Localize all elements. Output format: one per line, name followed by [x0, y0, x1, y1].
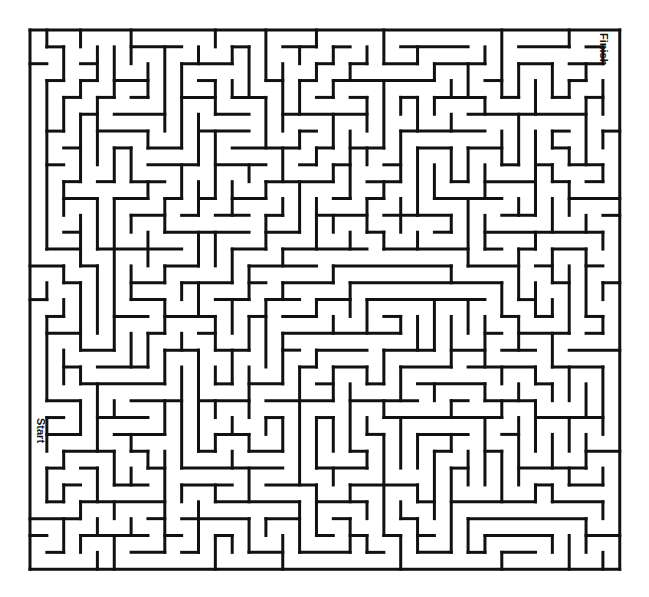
start-label: Start — [35, 418, 46, 443]
finish-label: Finish — [598, 33, 609, 65]
maze-figure: Start Finish — [0, 0, 649, 597]
page-background: Start Finish — [0, 0, 649, 597]
maze-canvas — [0, 0, 649, 597]
